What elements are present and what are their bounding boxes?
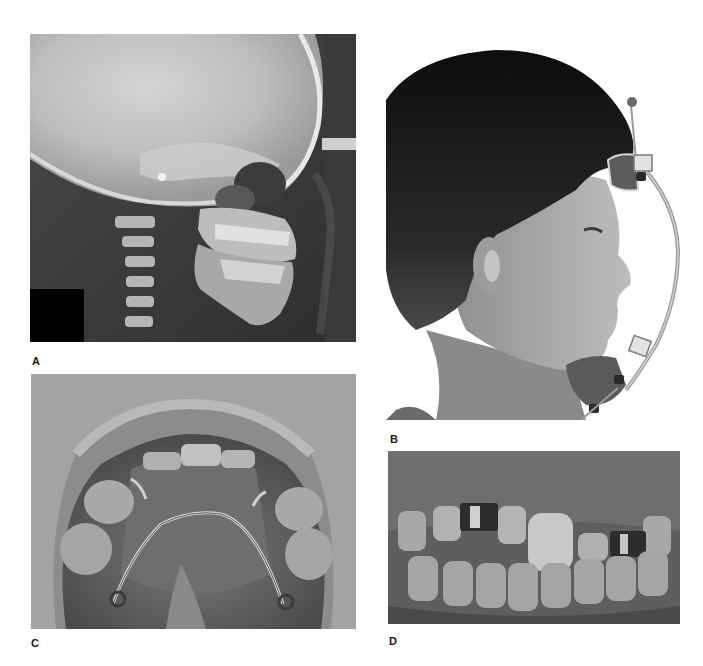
- xray-image: [30, 34, 356, 342]
- panel-label-b: B: [390, 434, 398, 445]
- panel-d-frontal-intraoral: [388, 451, 680, 624]
- profile-photo: [386, 40, 702, 420]
- black-box: [30, 289, 84, 342]
- panel-label-c: C: [31, 638, 39, 649]
- frontal-teeth-photo: [388, 451, 680, 624]
- panel-c-occlusal-view: [31, 374, 356, 629]
- panel-a-cephalometric-xray: [30, 34, 356, 342]
- panel-label-d: D: [389, 636, 397, 647]
- occlusal-photo: [31, 374, 356, 629]
- panel-b-profile-facemask: [386, 40, 702, 420]
- panel-label-a: A: [32, 356, 40, 367]
- figure-caption: · · · · · · · · · · · · · · · · · · ·: [150, 655, 550, 661]
